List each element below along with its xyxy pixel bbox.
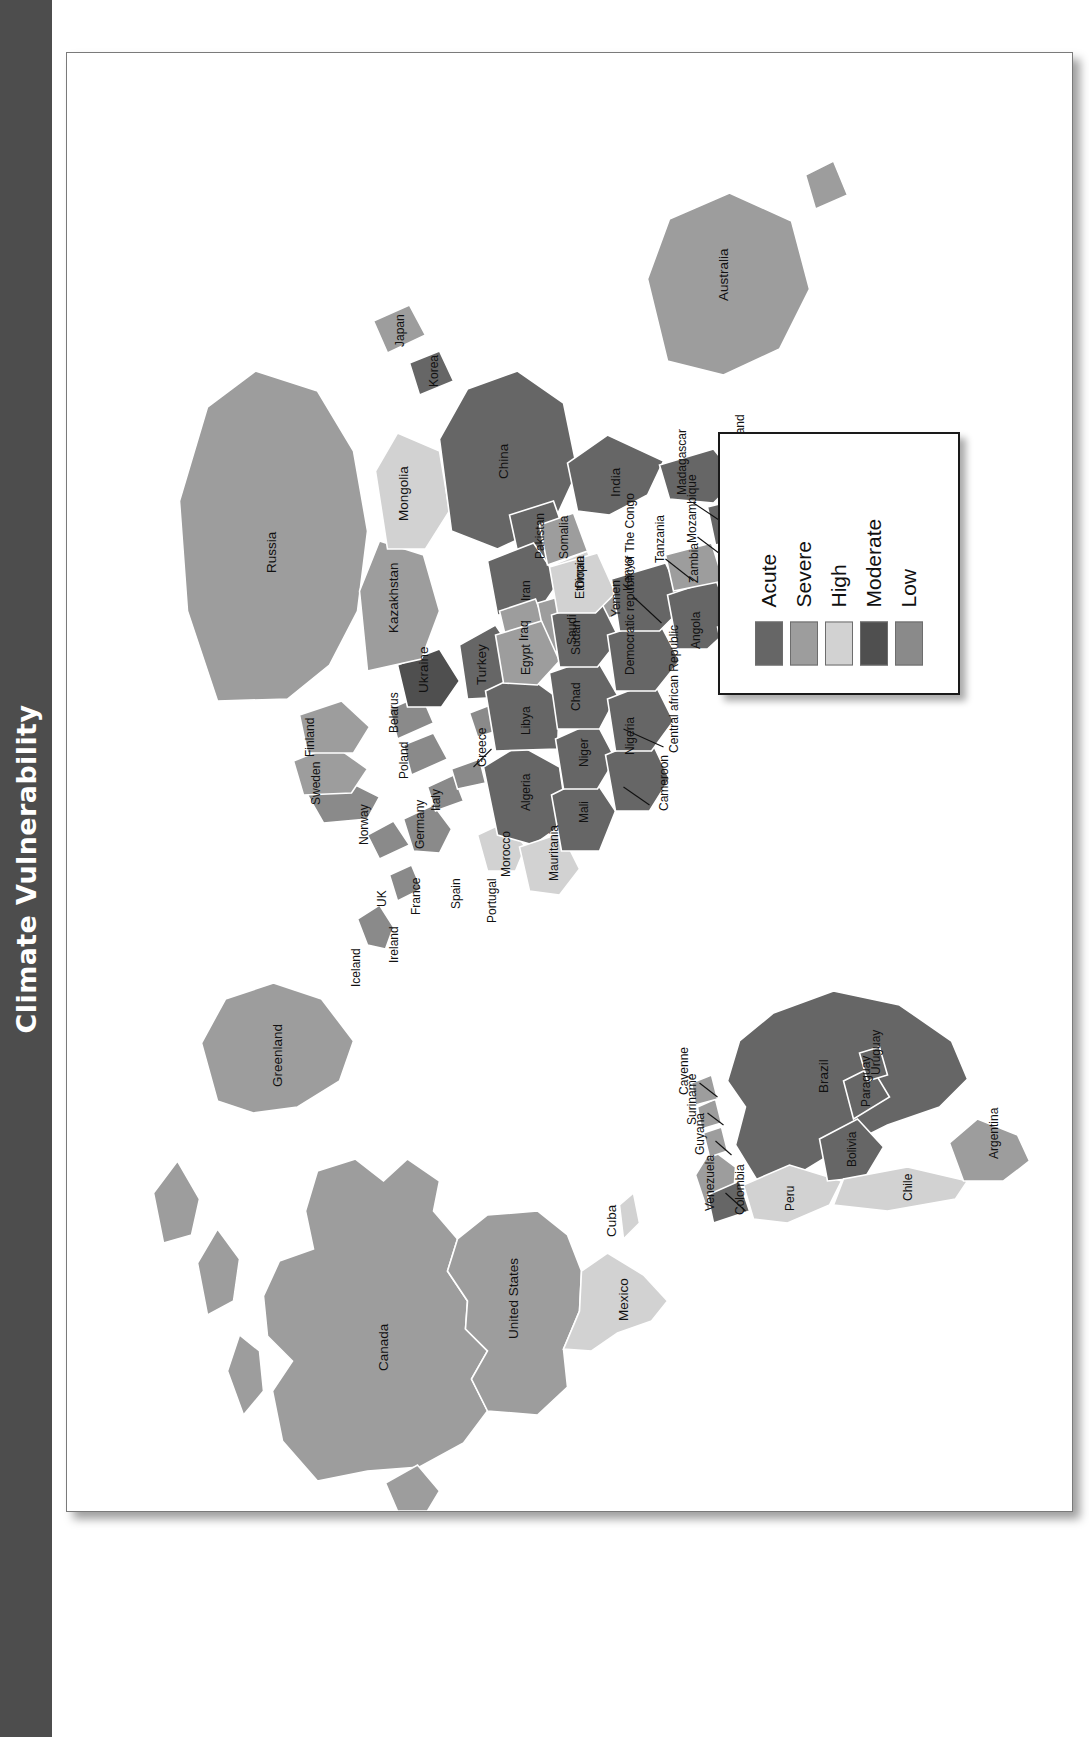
page-title: Climate Vulnerability [11,704,42,1033]
country-label: Peru [782,1186,796,1211]
world-map-svg[interactable]: .sev{fill:#9d9d9d;stroke:#ffffff;stroke-… [67,53,1072,1511]
country-label: Angola [688,611,702,649]
legend-label-moderate: Moderate [862,518,886,607]
country-label: Portugal [484,878,498,923]
legend-item-low: Low [895,434,923,665]
country-label: Belarus [386,692,400,733]
legend-swatch-high [825,621,853,665]
legend-item-acute: Acute [755,434,783,665]
legend-item-high: High [825,434,853,665]
legend-swatch-low [895,621,923,665]
country-label: Ukraine [415,646,430,693]
legend-swatch-moderate [860,621,888,665]
country-label: Greece [474,727,488,767]
country-label: Greenland [269,1024,284,1087]
country-label: Germany [412,800,426,849]
country-label: Italy [428,789,442,811]
country-label: Sweden [308,762,322,805]
country-label: China [495,443,510,479]
country-label: Mauritania [546,825,560,881]
country-label: Cayenne [676,1047,690,1095]
country-label: Nigeria [622,717,636,755]
country-label: India [607,467,622,497]
country-label: Tanzania [652,515,666,563]
country-label: Argentina [986,1107,1000,1159]
country-label: Korea [426,355,440,387]
title-band: Climate Vulnerability [0,0,52,1737]
legend-label-acute: Acute [757,553,781,607]
legend-items: Acute Severe High Moderate Low [720,434,958,693]
country-label: Mali [576,801,590,823]
country-label: Poland [396,742,410,779]
country-label: Libya [518,706,532,735]
country-label: Ethiopia [572,555,586,599]
country-label: Russia [263,531,278,573]
country-label: Turkey [473,644,488,685]
country-label: Colombia [732,1164,746,1215]
country-label: Madagascar [674,429,688,495]
country-label: Iraq [516,620,530,641]
country-label: Cuba [603,1204,618,1237]
map-legend: Acute Severe High Moderate Low [718,432,960,695]
country-label: Kazakhstan [385,562,400,633]
legend-item-moderate: Moderate [860,434,888,665]
country-label: Chile [900,1173,914,1201]
country-label: Spain [448,878,462,909]
country-label: Iceland [348,948,362,987]
legend-label-low: Low [897,568,921,607]
country-label: Canada [375,1323,390,1371]
country-label: Venezuela [702,1155,716,1211]
country-label: Kenya [620,557,634,591]
country-label: Somalia [556,515,570,559]
country-label: France [408,877,422,915]
country-label: Sudan [568,620,582,655]
country-label: Uruguay [868,1030,882,1075]
country-label: Cameroon [656,755,670,811]
country-label: Central african Republic [666,625,680,753]
map-rotation-wrapper: .sev{fill:#9d9d9d;stroke:#ffffff;stroke-… [67,53,1072,1511]
legend-label-severe: Severe [792,540,816,607]
legend-label-high: High [827,564,851,607]
country-label: Morocco [498,831,512,877]
country-label: Algeria [518,773,532,811]
country-label: Niger [576,738,590,767]
country-label: Pakistan [532,513,546,559]
country-label: Japan [392,314,406,347]
country-label: United States [505,1258,520,1339]
country-label: Ireland [386,926,400,963]
country-label: Chad [568,682,582,711]
legend-swatch-severe [790,621,818,665]
country-label: Mexico [615,1278,630,1321]
country-label: Australia [715,248,730,301]
country-label: Iran [518,580,532,601]
country-label: Brazil [815,1059,830,1093]
map-panel: .sev{fill:#9d9d9d;stroke:#ffffff;stroke-… [66,52,1073,1512]
legend-item-severe: Severe [790,434,818,665]
country-label: Bolivia [844,1131,858,1167]
legend-swatch-acute [755,621,783,665]
country-label: Mongolia [395,466,410,521]
country-label: Finland [302,718,316,757]
country-label: Egypt [518,644,532,675]
country-label: Norway [356,804,370,845]
country-label: UK [374,890,388,907]
